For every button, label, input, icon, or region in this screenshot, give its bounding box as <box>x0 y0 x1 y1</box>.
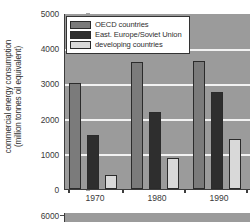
legend-item-east-europe-soviet-union: East. Europe/Soviet Union <box>70 30 186 40</box>
bar-1970-developing-countries <box>105 175 117 189</box>
y-tick-label-2000: 2000 <box>26 115 59 123</box>
energy-consumption-bar-chart: commercial energy consumption (million t… <box>0 0 250 200</box>
x-tick-mark-group1-start <box>68 190 70 193</box>
legend-swatch-icon-developing-countries <box>70 41 91 49</box>
secondary-y-tick-label-6000: 6000 <box>26 212 59 220</box>
y-tick-label-0: 0 <box>26 186 59 194</box>
bar-1990-oecd-countries <box>193 61 205 189</box>
bar-group-1990 <box>193 14 247 189</box>
bar-1980-developing-countries <box>167 158 179 189</box>
chart-legend: OECD countries East. Europe/Soviet Union… <box>66 16 190 54</box>
bar-1970-oecd-countries <box>69 83 81 189</box>
x-tick-mark-group1-end <box>122 190 124 193</box>
legend-swatch-icon-east-europe-soviet-union <box>70 31 91 39</box>
y-axis-label: commercial energy consumption (million t… <box>0 0 28 192</box>
secondary-chart-cropped: 6000 <box>0 200 250 222</box>
y-axis-label-line2: (million tonnes oil equivalent) <box>14 39 24 153</box>
y-axis-label-line1: commercial energy consumption <box>5 39 14 153</box>
y-tick-label-5000: 5000 <box>26 10 59 18</box>
bar-1990-east-europe-soviet-union <box>211 92 223 189</box>
x-tick-mark-group2-end <box>184 190 186 193</box>
y-axis-ticks: 5000 4000 3000 2000 1000 0 <box>26 14 59 190</box>
y-tick-label-3000: 3000 <box>26 80 59 88</box>
bar-1970-east-europe-soviet-union <box>87 135 99 189</box>
legend-swatch-icon-oecd-countries <box>70 21 91 29</box>
legend-item-oecd-countries: OECD countries <box>70 20 186 30</box>
legend-item-developing-countries: developing countries <box>70 40 186 50</box>
bar-1980-oecd-countries <box>131 62 143 189</box>
secondary-plot-area <box>64 213 250 222</box>
legend-label-developing-countries: developing countries <box>95 41 163 49</box>
y-tick-label-4000: 4000 <box>26 45 59 53</box>
legend-label-oecd-countries: OECD countries <box>95 21 148 29</box>
x-tick-mark-group3-end <box>246 190 248 193</box>
bar-1990-developing-countries <box>229 139 241 189</box>
bar-1980-east-europe-soviet-union <box>149 112 161 189</box>
legend-label-east-europe-soviet-union: East. Europe/Soviet Union <box>95 31 182 39</box>
y-tick-label-1000: 1000 <box>26 151 59 159</box>
